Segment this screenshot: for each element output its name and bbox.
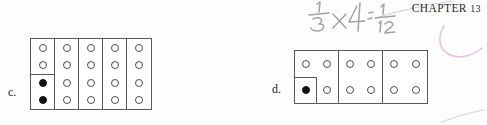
item-c: c.: [8, 38, 152, 110]
dot-open: [63, 79, 71, 87]
worksheet-page: CHAPTER 13 c.: [0, 0, 487, 125]
chapter-label: CHAPTER 13: [412, 2, 481, 14]
column-2: [55, 39, 79, 109]
dot-open: [412, 86, 420, 94]
dot-open: [63, 61, 71, 69]
dot-open: [135, 61, 143, 69]
dot-open: [390, 86, 398, 94]
column-4: [103, 39, 127, 109]
dot-filled: [302, 86, 310, 94]
dot-open: [346, 86, 354, 94]
dot-open: [135, 79, 143, 87]
dot-open: [63, 44, 71, 52]
item-c-figure: [30, 38, 152, 110]
chapter-word: CHAPTER: [412, 2, 467, 14]
dot-open: [111, 79, 119, 87]
column-3: [79, 39, 103, 109]
dot-open: [135, 96, 143, 104]
pink-curved-mark-icon: [436, 22, 486, 64]
item-d: d.: [272, 50, 428, 104]
chapter-number: 13: [470, 3, 481, 14]
item-c-letter: c.: [8, 85, 30, 100]
dot-open: [63, 96, 71, 104]
box-2: [339, 51, 383, 103]
dot-open: [135, 44, 143, 52]
dot-open: [39, 61, 47, 69]
dot-open: [39, 44, 47, 52]
dot-open: [367, 86, 375, 94]
dot-open: [87, 61, 95, 69]
dot-open: [87, 79, 95, 87]
item-d-figure: [294, 50, 428, 104]
dot-open: [87, 44, 95, 52]
dot-open: [323, 86, 331, 94]
dot-open: [412, 60, 420, 68]
box-3: [383, 51, 427, 103]
dot-open: [323, 60, 331, 68]
dot-open: [302, 60, 310, 68]
dot-open: [111, 44, 119, 52]
column-1: [31, 39, 55, 109]
faint-bottom-stroke-icon: [440, 108, 486, 125]
dot-filled: [39, 96, 47, 104]
dot-open: [346, 60, 354, 68]
handwritten-expression: [305, 1, 410, 37]
item-d-letter: d.: [272, 82, 294, 97]
dot-open: [367, 60, 375, 68]
dot-filled: [39, 79, 47, 87]
column-5: [127, 39, 151, 109]
dot-open: [111, 96, 119, 104]
box-1: [295, 51, 339, 103]
dot-open: [390, 60, 398, 68]
dot-open: [111, 61, 119, 69]
dot-open: [87, 96, 95, 104]
